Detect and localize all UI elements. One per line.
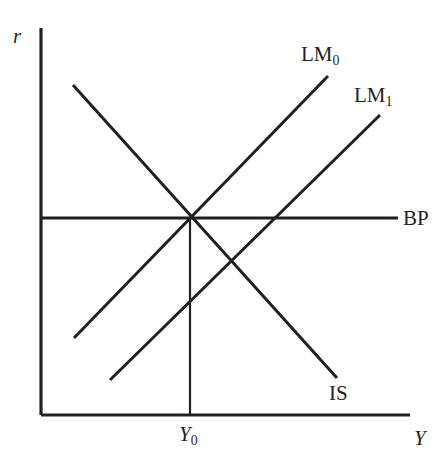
diagram-canvas [0, 0, 447, 467]
lm1-curve [110, 115, 380, 380]
y0-tick-label: Y0 [179, 424, 198, 445]
is-label: IS [329, 383, 348, 404]
y0-label-subscript: 0 [191, 433, 198, 448]
y-axis-label: r [13, 26, 21, 47]
is-lm-bp-figure: r Y LM0 LM1 BP IS Y0 [0, 0, 447, 467]
lm0-label-subscript: 0 [333, 53, 340, 68]
lm1-label-subscript: 1 [386, 94, 393, 109]
is-curve [73, 85, 337, 378]
y0-label-text: Y [179, 422, 191, 446]
x-axis-label: Y [414, 428, 426, 449]
bp-label: BP [403, 208, 429, 229]
lm0-label-text: LM [301, 42, 333, 66]
lm1-label: LM1 [354, 85, 392, 106]
lm0-label: LM0 [301, 44, 339, 65]
lm0-curve [74, 76, 328, 338]
lm1-label-text: LM [354, 83, 386, 107]
